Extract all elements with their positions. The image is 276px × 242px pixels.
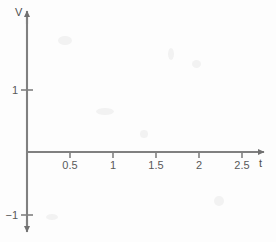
- y-tick-label-1: 1: [9, 85, 18, 96]
- x-tick-label-1: 1: [110, 160, 116, 171]
- x-axis-label-t: t: [259, 158, 262, 169]
- y-axis-label-V: V: [15, 7, 22, 18]
- x-tick-label-0point5: 0.5: [62, 160, 77, 171]
- axes-svg: [0, 0, 276, 242]
- x-tick-label-1point5: 1.5: [148, 160, 163, 171]
- y-tick-label-minus1: −1: [5, 210, 18, 221]
- x-tick-label-2: 2: [196, 160, 202, 171]
- plot-figure: V t 0.5 1 1.5 2 2.5 1 −1: [0, 0, 276, 242]
- x-tick-label-2point5: 2.5: [234, 160, 249, 171]
